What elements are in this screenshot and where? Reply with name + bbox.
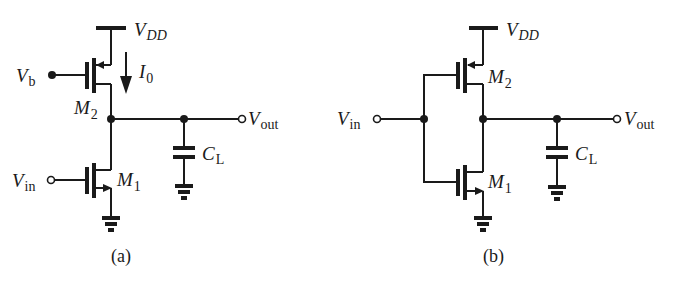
vdd-label-a: VDD [134, 19, 167, 43]
vin-terminal-b [374, 116, 381, 123]
load-capacitor-a [173, 119, 195, 198]
bias-node [48, 71, 56, 79]
caption-a: (a) [111, 246, 131, 267]
vin-label-a: Vin [12, 170, 36, 194]
vin-label-b: Vin [337, 108, 361, 132]
ground-icon [102, 218, 120, 230]
vdd-label-b: VDD [506, 19, 539, 43]
m2-label-b: M2 [487, 66, 512, 91]
nmos-m1-a [48, 163, 113, 218]
nmos-m1-b [458, 165, 484, 218]
source-arrow-icon [96, 61, 104, 69]
m1-label-a: M1 [116, 169, 141, 194]
m1-label-b: M1 [487, 171, 512, 196]
current-label: I0 [138, 61, 153, 86]
current-arrow-icon [120, 52, 132, 94]
cl-label-b: CL [575, 143, 597, 167]
vout-terminal-a [239, 116, 246, 123]
circuit-figure: VDD Vb I0 M2 Vout CL Vin M1 (a) [0, 0, 673, 281]
vout-terminal-b [614, 116, 621, 123]
source-arrow-icon [467, 61, 475, 69]
gate-node-b [420, 115, 428, 123]
m2-label-a: M2 [73, 97, 98, 122]
vin-terminal-a [48, 177, 55, 184]
cl-label-a: CL [202, 143, 224, 167]
vb-label: Vb [16, 65, 36, 89]
vout-label-b: Vout [624, 108, 655, 132]
ground-icon [474, 218, 492, 230]
circuit-b: VDD M2 Vin Vout CL M1 (b) [337, 19, 655, 267]
caption-b: (b) [483, 246, 504, 267]
load-capacitor-b [546, 119, 568, 199]
circuit-a: VDD Vb I0 M2 Vout CL Vin M1 (a) [12, 19, 279, 267]
pmos-m2-b [424, 58, 483, 182]
vout-label-a: Vout [248, 108, 279, 132]
